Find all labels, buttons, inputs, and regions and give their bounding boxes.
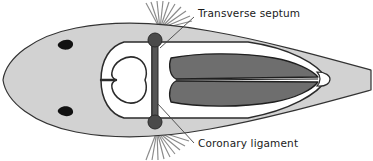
transverse-septum bbox=[152, 40, 158, 123]
diagram-canvas: Transverse septum and coronary ligament … bbox=[0, 0, 373, 161]
label-transverse-septum: Transverse septum bbox=[197, 7, 300, 19]
anatomical-figure: Transverse septum and coronary ligament … bbox=[0, 0, 373, 161]
label-coronary-ligament: Coronary ligament bbox=[198, 137, 298, 149]
coronary-ligament-node-upper bbox=[148, 33, 162, 47]
coronary-ligament-node-lower bbox=[148, 115, 162, 129]
